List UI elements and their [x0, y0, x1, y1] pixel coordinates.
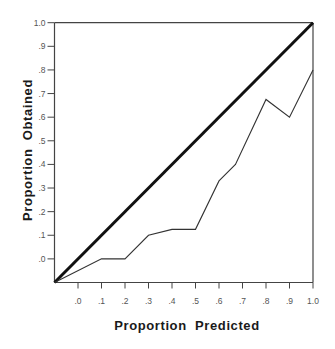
y-tick-label: .3: [38, 183, 45, 193]
y-tick-label: .0: [38, 254, 45, 264]
x-tick-label: .0: [74, 296, 81, 306]
series-layer: [55, 23, 314, 283]
x-tick-label: .8: [262, 296, 269, 306]
y-tick-label: .4: [38, 159, 45, 169]
x-tick-label: .2: [121, 296, 128, 306]
observed-calibration-line: [55, 70, 314, 283]
reference-diagonal-line: [55, 23, 314, 283]
calibration-chart: .0.1.2.3.4.5.6.7.8.91.0 .0.1.2.3.4.5.6.7…: [0, 0, 335, 349]
y-tick-label: 1.0: [34, 18, 46, 28]
x-tick-label: .1: [98, 296, 105, 306]
y-tick-label: .8: [38, 65, 45, 75]
y-tick-label: .7: [38, 89, 45, 99]
x-tick-label: .3: [145, 296, 152, 306]
x-tick-label: 1.0: [307, 296, 319, 306]
y-tick-label: .5: [38, 136, 45, 146]
y-tick-label: .1: [38, 230, 45, 240]
x-axis-title: Proportion Predicted: [114, 318, 260, 333]
y-tick-label: .6: [38, 112, 45, 122]
x-tick-label: .9: [286, 296, 293, 306]
y-tick-label: .9: [38, 41, 45, 51]
x-axis-ticks: .0.1.2.3.4.5.6.7.8.91.0: [74, 283, 319, 306]
y-axis-title: Proportion Obtained: [20, 79, 35, 221]
x-tick-label: .6: [215, 296, 222, 306]
x-tick-label: .4: [168, 296, 175, 306]
x-tick-label: .7: [239, 296, 246, 306]
y-tick-label: .2: [38, 207, 45, 217]
x-tick-label: .5: [192, 296, 199, 306]
y-axis-ticks: .0.1.2.3.4.5.6.7.8.91.0: [34, 18, 55, 264]
